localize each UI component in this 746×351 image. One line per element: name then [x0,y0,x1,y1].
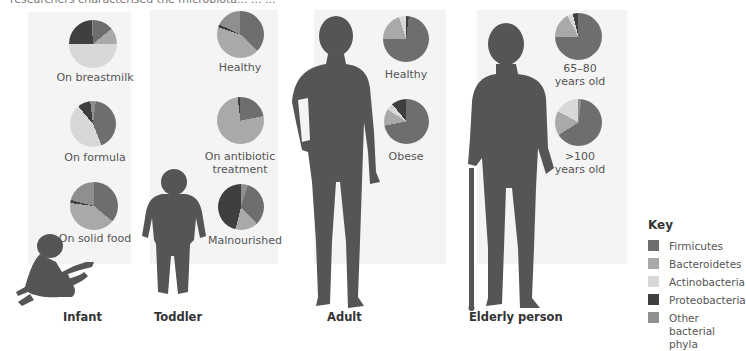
pie-on-antibiotic-treatment [217,97,264,144]
legend-label: Proteobacteria [669,294,746,307]
legend-label: Actinobacteria [669,276,745,289]
label-on-formula: On formula [50,151,140,164]
label-on-breastmilk: On breastmilk [50,71,140,84]
bacteroidetes-swatch-icon [648,258,659,269]
pie-obese [384,99,429,144]
legend-item-other: Other bacterial phyla [648,312,746,340]
legend-item-firmicutes: Firmicutes [648,240,746,254]
proteobacteria-swatch-icon [648,294,659,305]
legend-label: Other bacterial phyla [669,312,746,351]
firmicutes-swatch-icon [648,240,659,251]
actinobacteria-swatch-icon [648,276,659,287]
legend-item-bacteroidetes: Bacteroidetes [648,258,746,272]
stage-label-adult: Adult [327,310,362,324]
legend: Key Firmicutes Bacteroidetes Actinobacte… [648,218,746,344]
stage-label-elderly: Elderly person [469,310,563,324]
legend-label: Bacteroidetes [669,258,742,271]
other-phyla-swatch-icon [648,312,659,323]
legend-label: Firmicutes [669,240,723,253]
label-on-antibiotic-1: On antibiotic [195,150,285,163]
elderly-silhouette-icon [462,18,562,312]
stage-label-toddler: Toddler [154,310,202,324]
stage-label-infant: Infant [63,310,102,324]
pie-adult-healthy [383,16,429,62]
pie-65-80-years [555,13,602,60]
legend-item-actinobacteria: Actinobacteria [648,276,746,290]
legend-title: Key [648,218,746,232]
pie-toddler-healthy [217,11,264,58]
legend-item-proteobacteria: Proteobacteria [648,294,746,308]
pie-on-solid-food [70,182,118,230]
toddler-silhouette-icon [136,168,216,300]
label-toddler-healthy: Healthy [200,61,280,74]
infant-silhouette-icon [10,232,100,312]
pie-on-breastmilk [69,20,117,68]
adult-silhouette-icon [288,12,388,312]
legend-label-line1: Other bacterial [669,312,715,337]
pie-over-100-years [555,99,602,146]
legend-label-line2: phyla [669,338,698,350]
cutoff-caption: researchers characterised the microbiota… [10,0,275,6]
pie-on-formula [70,101,116,147]
pie-malnourished [218,184,264,230]
